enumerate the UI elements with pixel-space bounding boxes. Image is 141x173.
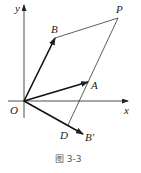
figure-caption: 图 3-3 xyxy=(55,154,82,164)
point-label-P: P xyxy=(115,3,123,15)
point-label-Bprime: B' xyxy=(85,131,95,143)
segment-BP xyxy=(55,18,118,38)
point-label-D: D xyxy=(59,129,68,141)
vector-OBprime xyxy=(24,101,83,134)
point-label-B: B xyxy=(51,23,58,35)
vector-diagram: y x O B P A D B' 图 3-3 xyxy=(0,0,141,173)
vector-OA xyxy=(24,82,88,101)
vector-OB xyxy=(24,38,55,101)
point-label-O: O xyxy=(10,104,18,116)
point-label-A: A xyxy=(90,79,98,91)
segment-PD xyxy=(68,18,118,125)
x-axis-label: x xyxy=(123,104,129,116)
y-axis-label: y xyxy=(14,2,20,14)
